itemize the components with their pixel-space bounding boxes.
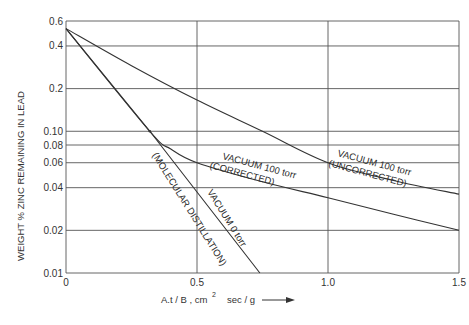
grid: [66, 21, 459, 273]
x-axis-label-main: A.t / B , cm: [161, 294, 208, 305]
curve-vacuum-100-corrected: [66, 29, 459, 231]
x-tick-label: 0: [63, 277, 69, 288]
y-axis-label: WEIGHT % ZINC REMAINING IN LEAD: [15, 91, 26, 261]
chart: 0.60.40.20.100.080.060.040.020.01 00.51.…: [0, 0, 469, 325]
annotation-uncorrected: VACUUM 100 torr (UNCORRECTED): [328, 146, 413, 189]
y-tick-label: 0.4: [49, 40, 63, 51]
y-tick-label: 0.08: [44, 140, 64, 151]
annotation-corrected: VACUUM 100 torr (CORRECTED): [209, 148, 298, 192]
x-axis-label: A.t / B , cm 2 sec / g: [161, 291, 295, 305]
x-tick-label: 1.0: [321, 277, 335, 288]
y-tick-label: 0.04: [44, 182, 64, 193]
y-tick-label: 0.01: [44, 268, 64, 279]
y-tick-label: 0.06: [44, 157, 64, 168]
y-tick-label: 0.10: [44, 126, 64, 137]
arrow-right-icon: [262, 297, 295, 303]
x-axis-label-superscript: 2: [212, 291, 216, 298]
y-tick-label: 0.02: [44, 225, 64, 236]
data-curves: [66, 29, 459, 273]
y-axis-ticks: 0.60.40.20.100.080.060.040.020.01: [44, 16, 64, 279]
x-tick-label: 0.5: [190, 277, 204, 288]
y-tick-label: 0.2: [49, 83, 63, 94]
x-tick-label: 1.5: [452, 277, 466, 288]
y-tick-label: 0.6: [49, 16, 63, 27]
x-axis-label-unit: sec / g: [227, 294, 255, 305]
x-axis-ticks: 00.51.01.5: [63, 277, 466, 288]
branch-point: [149, 130, 152, 133]
